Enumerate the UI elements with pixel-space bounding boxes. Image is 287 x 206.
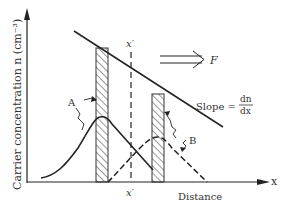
diffusion-diagram: Carrier concentration n (cm⁻³) Distance …: [0, 0, 287, 206]
x-axis-label: Distance: [178, 191, 222, 202]
slope-label: Slope =: [196, 101, 236, 112]
x-prime-top-label: x′: [126, 38, 135, 49]
flux-arrow-icon: [160, 51, 204, 68]
y-axis-label: Carrier concentration n (cm⁻³): [11, 19, 24, 190]
hatched-region-left: [96, 48, 108, 182]
slope-denominator: dx: [240, 106, 251, 116]
x-axis: [27, 179, 270, 185]
curve-a-label: A: [67, 97, 76, 108]
diagram-canvas: Carrier concentration n (cm⁻³) Distance …: [0, 0, 287, 206]
y-axis: [24, 8, 30, 183]
flux-label: F: [209, 54, 218, 67]
y-axis-arrow-icon: [24, 8, 30, 20]
leader-a: [76, 108, 84, 130]
x-prime-bottom-label: x′: [126, 187, 135, 198]
leader-b: [166, 114, 176, 138]
slope-numerator: dn: [240, 94, 252, 104]
curve-b-label: B: [189, 135, 196, 146]
x-axis-symbol: x: [271, 175, 278, 188]
x-axis-arrow-icon: [257, 179, 270, 185]
